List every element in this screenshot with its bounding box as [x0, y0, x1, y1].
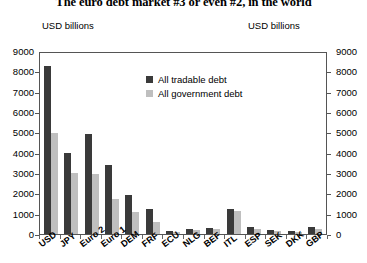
- y-axis-caption-right: USD billions: [248, 20, 300, 31]
- y-tick-mark-left: [35, 133, 39, 134]
- y-tick-label-left: 5000: [13, 128, 34, 138]
- y-tick-label-right: 2000: [336, 189, 357, 199]
- y-tick-label-left: 2000: [13, 189, 34, 199]
- y-axis-caption-left: USD billions: [42, 20, 94, 31]
- y-tick-label-right: 4000: [336, 149, 357, 159]
- bar-group: [305, 53, 325, 234]
- y-tick-mark-left: [35, 215, 39, 216]
- bar-group: [41, 53, 61, 234]
- y-tick-mark-right: [327, 113, 331, 114]
- x-axis-labels: USDJPYEuro 2Euro 1DEMFRFECUNLGBEFITLESPS…: [39, 239, 327, 263]
- legend-swatch-icon-1: [146, 90, 153, 97]
- x-tick-mark: [327, 235, 328, 239]
- y-tick-mark-left: [35, 174, 39, 175]
- bar: [234, 211, 241, 234]
- legend-label-0: All tradable debt: [158, 74, 227, 85]
- legend-item-1: All government debt: [146, 86, 243, 100]
- y-tick-label-right: 3000: [336, 169, 357, 179]
- y-tick-label-right: 5000: [336, 128, 357, 138]
- y-tick-mark-right: [327, 93, 331, 94]
- bar: [64, 153, 71, 234]
- bar: [85, 134, 92, 234]
- y-tick-label-left: 3000: [13, 169, 34, 179]
- y-tick-mark-left: [35, 154, 39, 155]
- y-tick-mark-right: [327, 174, 331, 175]
- legend-swatch-icon-0: [146, 76, 153, 83]
- y-tick-label-right: 9000: [336, 47, 357, 57]
- bar: [51, 133, 58, 234]
- y-tick-mark-right: [327, 215, 331, 216]
- y-tick-label-right: 7000: [336, 88, 357, 98]
- page-title: The euro debt market #3 or even #2, in t…: [0, 0, 367, 9]
- bar: [71, 173, 78, 234]
- bar-group: [82, 53, 102, 234]
- bar: [146, 209, 153, 234]
- legend-item-0: All tradable debt: [146, 72, 243, 86]
- y-tick-label-right: 6000: [336, 108, 357, 118]
- y-tick-label-right: 8000: [336, 67, 357, 77]
- y-tick-mark-right: [327, 154, 331, 155]
- y-tick-mark-left: [35, 194, 39, 195]
- y-tick-mark-right: [327, 72, 331, 73]
- bar: [227, 209, 234, 234]
- y-tick-label-left: 4000: [13, 149, 34, 159]
- bar-group: [264, 53, 284, 234]
- y-tick-mark-right: [327, 133, 331, 134]
- y-tick-mark-left: [35, 113, 39, 114]
- y-tick-label-right: 0: [336, 230, 341, 240]
- y-tick-label-right: 1000: [336, 210, 357, 220]
- y-tick-mark-right: [327, 194, 331, 195]
- bar-group: [102, 53, 122, 234]
- y-tick-label-left: 8000: [13, 67, 34, 77]
- bar-group: [284, 53, 304, 234]
- y-tick-label-left: 7000: [13, 88, 34, 98]
- y-tick-mark-left: [35, 72, 39, 73]
- bar: [105, 165, 112, 234]
- y-tick-label-left: 1000: [13, 210, 34, 220]
- y-tick-label-left: 6000: [13, 108, 34, 118]
- chart-legend: All tradable debt All government debt: [146, 72, 243, 100]
- bar-group: [244, 53, 264, 234]
- y-tick-label-left: 9000: [13, 47, 34, 57]
- bar: [125, 195, 132, 234]
- bar: [44, 66, 51, 234]
- y-tick-label-left: 0: [29, 230, 34, 240]
- y-tick-mark-left: [35, 93, 39, 94]
- bar-group: [122, 53, 142, 234]
- bar-group: [61, 53, 81, 234]
- legend-label-1: All government debt: [158, 88, 243, 99]
